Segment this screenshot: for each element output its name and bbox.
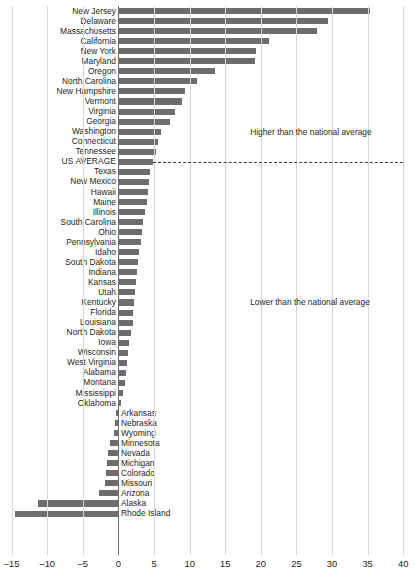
bar-label: Iowa <box>12 337 116 347</box>
bar <box>118 98 181 104</box>
gridline-35 <box>368 6 369 555</box>
bar-label: Indiana <box>12 267 116 277</box>
bar-row: Nebraska <box>12 418 404 428</box>
gridline--10 <box>47 6 48 555</box>
x-tick-35: 35 <box>362 558 372 569</box>
bar <box>99 490 118 496</box>
bar <box>118 88 184 94</box>
bar-row: Illinois <box>12 207 404 217</box>
bar-row: Connecticut <box>12 137 404 147</box>
bar <box>118 350 127 356</box>
bar <box>118 189 148 195</box>
bar-label: Delaware <box>12 16 116 26</box>
bar <box>118 28 317 34</box>
bar-label: Mississippi <box>12 388 116 398</box>
bar <box>15 511 119 517</box>
bar-row: Nevada <box>12 448 404 458</box>
x-tick-10: 10 <box>184 558 194 569</box>
bar-row: Colorado <box>12 468 404 478</box>
bar-label: Michigan <box>121 458 406 468</box>
bar-row: New York <box>12 46 404 56</box>
bar-label: Colorado <box>121 468 406 478</box>
bar-rows: New JerseyDelawareMassachusettsCaliforni… <box>12 6 404 555</box>
bar-label: Vermont <box>12 96 116 106</box>
bar <box>107 460 118 466</box>
bar-label: Kansas <box>12 277 116 287</box>
bar <box>118 119 169 125</box>
x-tick-25: 25 <box>291 558 301 569</box>
bar <box>118 139 157 145</box>
bar-row: Georgia <box>12 117 404 127</box>
bar-row: Virginia <box>12 107 404 117</box>
bar <box>118 149 156 155</box>
bar-label: Idaho <box>12 247 116 257</box>
x-tick-40: 40 <box>398 558 408 569</box>
bar-label: Alabama <box>12 367 116 377</box>
bar <box>118 370 125 376</box>
bar <box>108 450 118 456</box>
bar-row: South Dakota <box>12 257 404 267</box>
bar-row: New Mexico <box>12 177 404 187</box>
bar <box>118 310 133 316</box>
bar-row: Massachusetts <box>12 26 404 36</box>
bar-label: Louisiana <box>12 317 116 327</box>
bar-label: Nevada <box>121 448 406 458</box>
bar-row: Idaho <box>12 247 404 257</box>
bar <box>118 38 269 44</box>
bar-label: Montana <box>12 377 116 387</box>
gridline-30 <box>332 6 333 555</box>
bar-row: Pennsylvania <box>12 237 404 247</box>
bar-label: Nebraska <box>121 418 406 428</box>
bar-row: Iowa <box>12 338 404 348</box>
bar <box>110 440 119 446</box>
bar-label: Maryland <box>12 56 116 66</box>
gridline--15 <box>12 6 13 555</box>
bar <box>118 340 129 346</box>
gridline--5 <box>83 6 84 555</box>
bar <box>118 299 134 305</box>
bar-row: Maryland <box>12 56 404 66</box>
bar-label: Ohio <box>12 227 116 237</box>
bar <box>38 500 118 506</box>
bar <box>118 109 174 115</box>
bar-row: Wisconsin <box>12 348 404 358</box>
x-axis: –15–10–50510152025303540 <box>12 558 404 578</box>
bar-label: New Hampshire <box>12 86 116 96</box>
bar-label: Kentucky <box>12 297 116 307</box>
bar-label: Arizona <box>121 488 406 498</box>
bar-label: US AVERAGE <box>12 156 116 166</box>
gridline-15 <box>225 6 226 555</box>
bar-row: Mississippi <box>12 388 404 398</box>
x-tick--15: –15 <box>4 558 20 569</box>
plot-area: New JerseyDelawareMassachusettsCaliforni… <box>12 6 404 555</box>
bar <box>118 78 197 84</box>
bar-row: New Hampshire <box>12 86 404 96</box>
bar <box>118 169 150 175</box>
us-average-reference-line <box>153 162 403 163</box>
bar <box>118 289 134 295</box>
bar-label: Oklahoma <box>12 398 116 408</box>
bar-label: Missouri <box>121 478 406 488</box>
bar-label: Georgia <box>12 116 116 126</box>
bar <box>118 48 255 54</box>
bar-row: Montana <box>12 378 404 388</box>
gridline-20 <box>261 6 262 555</box>
bar <box>118 239 141 245</box>
zero-axis-line <box>118 6 119 555</box>
bar-label: Illinois <box>12 207 116 217</box>
bar-label: New York <box>12 46 116 56</box>
bar <box>118 330 130 336</box>
bar <box>118 229 141 235</box>
bar-row: North Carolina <box>12 76 404 86</box>
annotation-higher-than-average: Higher than the national average <box>250 127 372 137</box>
bar <box>118 179 149 185</box>
bar-row: South Carolina <box>12 217 404 227</box>
bar-row: Florida <box>12 308 404 318</box>
x-tick-30: 30 <box>327 558 337 569</box>
bar-label: New Mexico <box>12 176 116 186</box>
bar-row: Alabama <box>12 368 404 378</box>
bar-row: Utah <box>12 287 404 297</box>
bar-label: Pennsylvania <box>12 237 116 247</box>
bar <box>118 199 146 205</box>
bar-row: Alaska <box>12 498 404 508</box>
